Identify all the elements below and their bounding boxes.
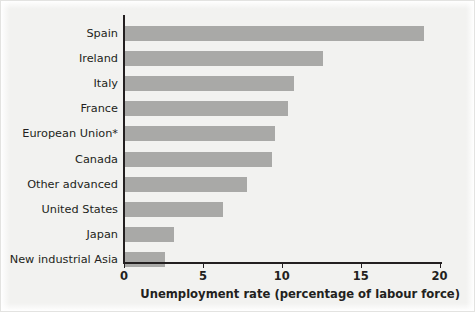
x-axis-tick: [361, 263, 362, 268]
bar: [124, 51, 323, 66]
x-axis-tick-label: 20: [432, 269, 448, 283]
chart-figure: 05101520 SpainIrelandItalyFranceEuropean…: [0, 0, 475, 312]
bar: [124, 152, 272, 167]
category-label: European Union*: [1, 126, 118, 141]
bar: [124, 252, 165, 267]
category-label: Ireland: [1, 51, 118, 66]
bar: [124, 227, 174, 242]
category-label: United States: [1, 202, 118, 217]
category-label: Spain: [1, 26, 118, 41]
bar: [124, 101, 288, 116]
bar: [124, 76, 294, 91]
bar-fill: [124, 126, 275, 141]
x-axis-tick: [203, 263, 204, 268]
bar-fill: [124, 252, 165, 267]
bar: [124, 202, 223, 217]
category-label: France: [1, 101, 118, 116]
bar: [124, 126, 275, 141]
x-axis-tick: [124, 263, 125, 268]
bar: [124, 26, 424, 41]
x-axis-tick-label: 10: [274, 269, 290, 283]
bar-fill: [124, 152, 272, 167]
bar: [124, 177, 247, 192]
bar-fill: [124, 26, 424, 41]
category-label: Japan: [1, 227, 118, 242]
y-axis-line: [123, 15, 125, 263]
category-label: New industrial Asia: [1, 252, 118, 267]
x-axis-tick: [440, 263, 441, 268]
bar-fill: [124, 51, 323, 66]
bar-fill: [124, 101, 288, 116]
category-label: Italy: [1, 76, 118, 91]
x-axis-tick-label: 15: [353, 269, 369, 283]
x-axis-tick-label: 0: [120, 269, 128, 283]
category-label: Other advanced: [1, 177, 118, 192]
bar-fill: [124, 177, 247, 192]
category-label: Canada: [1, 152, 118, 167]
x-axis-tick: [282, 263, 283, 268]
bar-fill: [124, 227, 174, 242]
x-axis-tick-label: 5: [199, 269, 207, 283]
bar-fill: [124, 202, 223, 217]
bar-fill: [124, 76, 294, 91]
x-axis-title: Unemployment rate (percentage of labour …: [1, 287, 460, 301]
